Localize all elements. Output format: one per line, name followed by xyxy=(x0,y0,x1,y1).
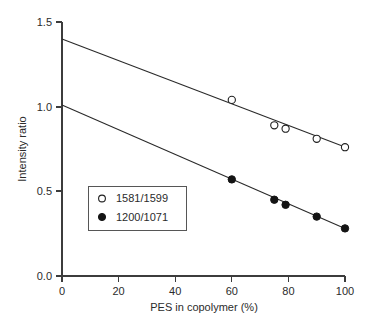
data-point-filled-79 xyxy=(282,201,289,208)
intensity-ratio-scatter-chart: 1.5 1.0 0.5 0.0 0 20 40 60 80 100 PES in… xyxy=(0,0,370,316)
legend-label-1: 1200/1071 xyxy=(116,211,168,223)
x-tick-label-0: 0 xyxy=(59,285,65,297)
y-tick-label-1: 0.5 xyxy=(37,185,52,197)
x-tick-label-2: 40 xyxy=(169,285,181,297)
data-point-filled-90 xyxy=(313,213,320,220)
chart-legend: 1581/1599 1200/1071 xyxy=(88,186,186,230)
data-point-open-75 xyxy=(271,122,278,129)
y-tick-label-2: 1.0 xyxy=(37,101,52,113)
x-axis-title: PES in copolymer (%) xyxy=(150,301,258,313)
legend-label-0: 1581/1599 xyxy=(116,192,168,204)
x-tick-label-3: 60 xyxy=(226,285,238,297)
data-point-open-100 xyxy=(341,144,348,151)
legend-marker-filled-circle-icon xyxy=(98,213,105,220)
data-point-open-79 xyxy=(282,125,289,132)
data-point-filled-100 xyxy=(341,225,348,232)
y-tick-label-3: 1.5 xyxy=(37,16,52,28)
x-tick-label-4: 80 xyxy=(282,285,294,297)
y-tick-label-0: 0.0 xyxy=(37,270,52,282)
data-point-filled-60 xyxy=(228,176,235,183)
data-point-open-60 xyxy=(228,96,235,103)
plot-background xyxy=(0,0,370,316)
x-tick-label-1: 20 xyxy=(112,285,124,297)
data-point-filled-75 xyxy=(271,196,278,203)
y-axis-title: Intensity ratio xyxy=(16,116,28,181)
data-point-open-90 xyxy=(313,135,320,142)
x-tick-label-5: 100 xyxy=(336,285,354,297)
legend-marker-open-circle-icon xyxy=(99,195,106,202)
chart-figure: 1.5 1.0 0.5 0.0 0 20 40 60 80 100 PES in… xyxy=(0,0,370,316)
